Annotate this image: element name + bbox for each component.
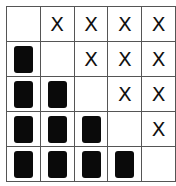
grid-cell bbox=[40, 77, 74, 112]
x-mark: X bbox=[152, 82, 166, 106]
x-mark: X bbox=[118, 12, 132, 36]
grid-cell: X bbox=[142, 77, 176, 112]
x-mark: X bbox=[152, 12, 166, 36]
black-block-icon bbox=[14, 151, 33, 178]
grid-cell bbox=[7, 42, 41, 77]
black-block-icon bbox=[82, 116, 101, 143]
grid-cell bbox=[74, 147, 108, 182]
grid-cell bbox=[7, 147, 41, 182]
grid-cell bbox=[74, 77, 108, 112]
x-mark: X bbox=[50, 12, 64, 36]
grid-cell: X bbox=[40, 7, 74, 42]
x-mark: X bbox=[84, 47, 98, 71]
x-mark: X bbox=[118, 82, 132, 106]
grid-cell bbox=[108, 147, 142, 182]
black-block-icon bbox=[48, 151, 67, 178]
grid-cell bbox=[142, 147, 176, 182]
grid-diagram: XXXXXXXXXX bbox=[6, 6, 176, 182]
grid-cell bbox=[108, 112, 142, 147]
grid-cell bbox=[7, 112, 41, 147]
grid-cell: X bbox=[74, 7, 108, 42]
grid-cell: X bbox=[108, 77, 142, 112]
black-block-icon bbox=[82, 151, 101, 178]
grid-row: XX bbox=[7, 77, 176, 112]
grid-cell: X bbox=[108, 7, 142, 42]
x-mark: X bbox=[152, 117, 166, 141]
grid-cell bbox=[40, 147, 74, 182]
black-block-icon bbox=[14, 46, 33, 73]
grid-cell bbox=[7, 7, 41, 42]
grid-cell: X bbox=[142, 112, 176, 147]
black-block-icon bbox=[115, 151, 134, 178]
x-mark: X bbox=[152, 47, 166, 71]
black-block-icon bbox=[48, 81, 67, 108]
black-block-icon bbox=[14, 116, 33, 143]
grid-cell bbox=[74, 112, 108, 147]
grid-cell bbox=[40, 112, 74, 147]
black-block-icon bbox=[14, 81, 33, 108]
grid-cell: X bbox=[74, 42, 108, 77]
grid-row bbox=[7, 147, 176, 182]
grid-row: XXXX bbox=[7, 7, 176, 42]
grid-cell bbox=[40, 42, 74, 77]
grid-cell bbox=[7, 77, 41, 112]
grid-cell: X bbox=[142, 7, 176, 42]
x-mark: X bbox=[118, 47, 132, 71]
grid-row: X bbox=[7, 112, 176, 147]
grid-cell: X bbox=[142, 42, 176, 77]
black-block-icon bbox=[48, 116, 67, 143]
grid-body: XXXXXXXXXX bbox=[7, 7, 176, 182]
grid-cell: X bbox=[108, 42, 142, 77]
grid-row: XXX bbox=[7, 42, 176, 77]
x-mark: X bbox=[84, 12, 98, 36]
